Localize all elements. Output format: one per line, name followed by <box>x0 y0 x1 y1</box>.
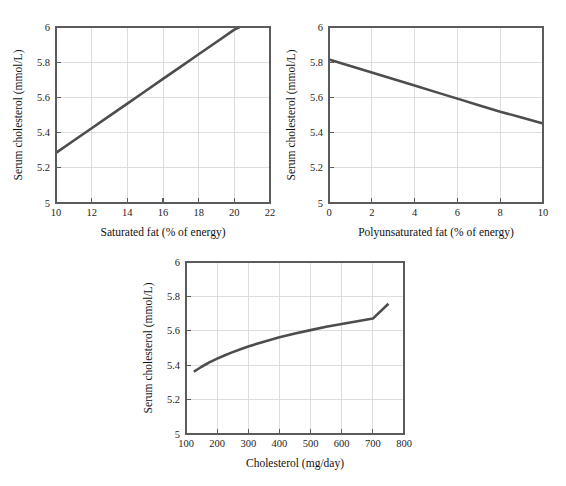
chart-svg-dietary-cholesterol: 100 200 300 400 500 600 700 800 5 5.2 5.… <box>130 252 430 486</box>
x-tick-label: 4 <box>412 207 418 218</box>
chart-svg-saturated-fat: 10 12 14 16 18 20 22 5 5.2 5.4 5.6 5.8 6… <box>0 0 286 250</box>
y-axis-title: Serum cholesterol (mmol/L) <box>285 49 298 180</box>
y-tick-label: 5.2 <box>167 394 180 405</box>
y-tick-label: 5.6 <box>37 92 50 103</box>
y-tick-label: 5.2 <box>310 162 323 173</box>
x-tick-label: 10 <box>51 207 62 218</box>
x-tick-label: 400 <box>272 438 288 449</box>
y-tick-labels: 5 5.2 5.4 5.6 5.8 6 <box>37 22 51 209</box>
x-tick-label: 12 <box>86 207 97 218</box>
x-tick-label: 700 <box>365 438 381 449</box>
x-axis-title: Polyunsaturated fat (% of energy) <box>358 226 514 239</box>
x-tick-labels: 10 12 14 16 18 20 22 <box>51 207 276 218</box>
x-tick-label: 800 <box>396 438 412 449</box>
plot-background <box>186 262 404 434</box>
y-tick-labels: 5 5.2 5.4 5.6 5.8 6 <box>167 257 181 440</box>
chart-panel-dietary-cholesterol: 100 200 300 400 500 600 700 800 5 5.2 5.… <box>130 252 430 486</box>
x-tick-label: 10 <box>538 207 549 218</box>
x-tick-label: 14 <box>122 207 133 218</box>
y-axis-title: Serum cholesterol (mmol/L) <box>142 282 155 413</box>
figure-container: 10 12 14 16 18 20 22 5 5.2 5.4 5.6 5.8 6… <box>0 0 566 486</box>
y-tick-label: 6 <box>175 257 180 268</box>
chart-panel-saturated-fat: 10 12 14 16 18 20 22 5 5.2 5.4 5.6 5.8 6… <box>0 0 286 250</box>
x-axis-title: Cholesterol (mg/day) <box>246 457 344 470</box>
x-tick-label: 18 <box>193 207 204 218</box>
x-tick-label: 600 <box>334 438 350 449</box>
y-tick-label: 5.8 <box>37 57 50 68</box>
chart-svg-polyunsaturated-fat: 0 2 4 6 8 10 5 5.2 5.4 5.6 5.8 6 Polyuns… <box>280 0 566 250</box>
y-tick-label: 6 <box>318 22 323 33</box>
y-tick-label: 5.8 <box>167 291 180 302</box>
x-tick-label: 2 <box>369 207 374 218</box>
y-tick-label: 5.6 <box>167 325 180 336</box>
x-tick-label: 200 <box>209 438 225 449</box>
y-tick-label: 5.8 <box>310 57 323 68</box>
x-tick-label: 500 <box>303 438 319 449</box>
x-axis-title: Saturated fat (% of energy) <box>101 226 226 239</box>
y-tick-label: 5.6 <box>310 92 323 103</box>
x-tick-label: 22 <box>265 207 276 218</box>
x-tick-label: 6 <box>455 207 460 218</box>
x-tick-label: 0 <box>326 207 331 218</box>
y-tick-label: 5.4 <box>167 360 181 371</box>
y-tick-label: 5 <box>318 198 323 209</box>
y-tick-label: 5 <box>45 198 50 209</box>
y-tick-label: 5.4 <box>37 127 51 138</box>
x-tick-labels: 0 2 4 6 8 10 <box>326 207 548 218</box>
y-tick-label: 5.4 <box>310 127 324 138</box>
y-tick-label: 6 <box>45 22 50 33</box>
x-tick-label: 16 <box>158 207 169 218</box>
x-tick-label: 20 <box>229 207 240 218</box>
x-tick-label: 8 <box>498 207 503 218</box>
x-tick-label: 100 <box>178 438 194 449</box>
y-tick-label: 5 <box>175 429 180 440</box>
y-axis-title: Serum cholesterol (mmol/L) <box>12 49 25 180</box>
x-tick-label: 300 <box>240 438 256 449</box>
x-tick-labels: 100 200 300 400 500 600 700 800 <box>178 438 412 449</box>
y-tick-labels: 5 5.2 5.4 5.6 5.8 6 <box>310 22 324 209</box>
y-tick-label: 5.2 <box>37 162 50 173</box>
chart-panel-polyunsaturated-fat: 0 2 4 6 8 10 5 5.2 5.4 5.6 5.8 6 Polyuns… <box>280 0 566 250</box>
